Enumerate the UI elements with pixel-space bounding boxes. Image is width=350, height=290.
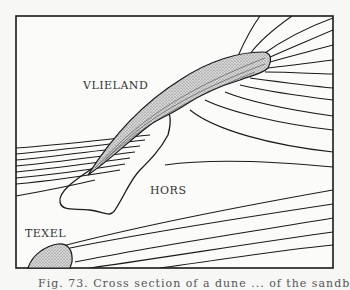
figure-caption: Fig. 73. Cross section of a dune ... of … xyxy=(38,277,350,290)
label-texel: TEXEL xyxy=(25,227,66,240)
label-hors: HORS xyxy=(150,184,186,197)
label-vlieland: VLIELAND xyxy=(82,79,148,92)
